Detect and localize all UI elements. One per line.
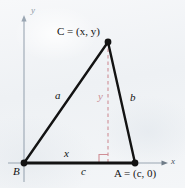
vertex-dot-b: [21, 160, 28, 167]
base-label-x: x: [64, 148, 69, 159]
side-label-a: a: [55, 90, 61, 101]
vertex-label-a: A = (c, 0): [114, 168, 156, 179]
base-label-c: c: [81, 166, 86, 177]
x-axis-arrowhead: [162, 161, 169, 166]
altitude-label-y: y: [98, 91, 103, 102]
vertex-dot-a: [132, 160, 139, 167]
y-axis-label: y: [31, 6, 35, 15]
geometry-figure: y x C = (x, y) B A = (c, 0) a b x c y: [0, 0, 185, 188]
vertex-dot-c: [105, 39, 112, 46]
y-axis-arrowhead: [21, 15, 26, 22]
vertex-label-c: C = (x, y): [57, 26, 100, 37]
y-axis: [21, 15, 26, 182]
side-label-b: b: [130, 92, 136, 103]
vertex-label-b: B: [13, 166, 20, 177]
triangle-side-a: [24, 42, 108, 163]
x-axis-label: x: [171, 157, 175, 166]
